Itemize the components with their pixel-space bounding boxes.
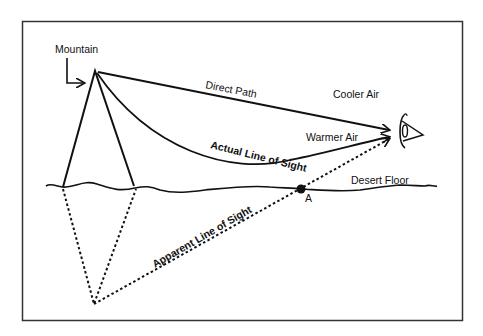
desert-floor-label: Desert Floor xyxy=(351,174,409,186)
cooler-air-label: Cooler Air xyxy=(333,88,380,100)
mountain-shape xyxy=(63,71,134,187)
apparent-line-of-sight-label: Apparent Line of Sight xyxy=(150,203,254,270)
direct-path-label: Direct Path xyxy=(205,78,258,100)
warmer-air-label: Warmer Air xyxy=(306,131,359,143)
point-a-label: A xyxy=(305,192,312,204)
mirage-diagram: Mountain A Direct Path Cooler Air Warmer… xyxy=(0,0,483,336)
mountain-pointer-arrow xyxy=(67,58,84,83)
mountain-label: Mountain xyxy=(55,43,98,55)
diagram-frame xyxy=(23,22,463,321)
actual-line-of-sight-label: Actual Line of Sight xyxy=(210,138,309,174)
eye-icon xyxy=(400,114,423,148)
